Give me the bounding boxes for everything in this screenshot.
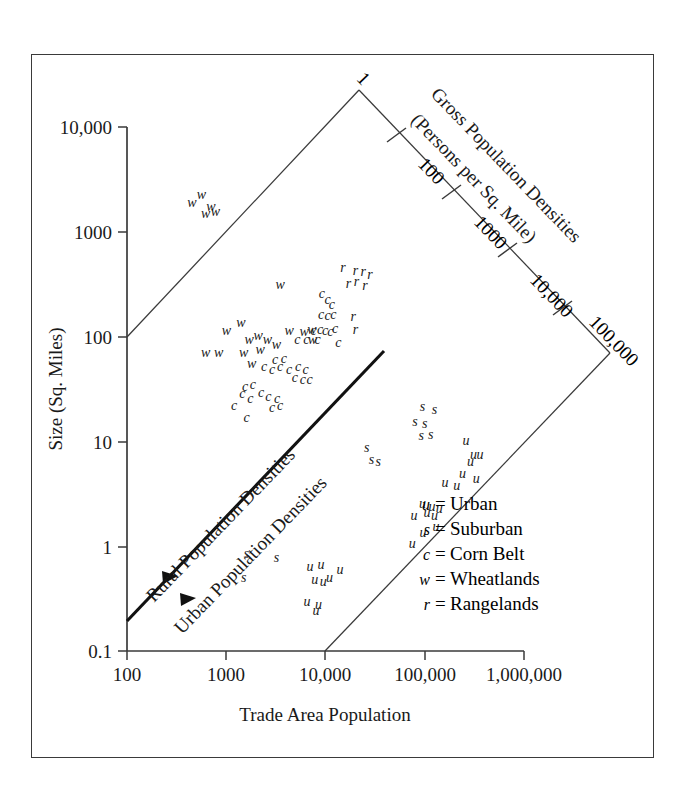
region-boundaries: [127, 90, 610, 651]
data-point-u: u: [442, 475, 449, 490]
y-tick-label: 100: [84, 327, 113, 348]
data-point-c: c: [335, 335, 342, 350]
data-point-r: r: [367, 267, 373, 282]
data-point-u: u: [337, 562, 344, 577]
data-point-w: w: [201, 345, 211, 360]
y-tick-label: 1000: [74, 222, 112, 243]
data-point-c: c: [269, 362, 276, 377]
data-point-c: c: [294, 332, 301, 347]
data-point-r: r: [340, 260, 346, 275]
data-point-w: w: [236, 315, 246, 330]
data-point-s: s: [274, 550, 280, 565]
data-point-w: w: [197, 187, 207, 202]
data-point-u: u: [462, 433, 469, 448]
figure-frame: 10,000 1000 100 10 1 0.1 100 1000 10,000…: [31, 54, 654, 758]
data-point-u: u: [467, 454, 474, 469]
data-point-u: u: [320, 574, 327, 589]
data-point-s: s: [432, 402, 438, 417]
data-point-c: c: [277, 398, 284, 413]
diagonal-tick-label: 1: [353, 68, 375, 89]
diagonal-tick-label: 100,000: [585, 311, 643, 370]
y-tick-label: 0.1: [88, 641, 112, 662]
y-axis-tick-labels: 10,000 1000 100 10 1 0.1: [60, 117, 112, 662]
x-tick-label: 1000: [207, 664, 245, 685]
data-point-r: r: [360, 264, 366, 279]
data-point-s: s: [420, 399, 426, 414]
data-point-s: s: [244, 546, 250, 561]
data-point-c: c: [277, 359, 284, 374]
legend-label: Wheatlands: [450, 568, 540, 589]
diagonal-axis-tick-labels: 1 100 1000 10,000 100,000: [353, 68, 643, 370]
data-point-w: w: [201, 206, 211, 221]
data-point-u: u: [477, 447, 484, 462]
data-point-c: c: [306, 372, 313, 387]
legend-label: Suburban: [450, 518, 523, 539]
data-point-w: w: [214, 345, 224, 360]
x-tick-label: 1,000,000: [486, 664, 562, 685]
data-point-u: u: [303, 594, 310, 609]
scatter-plot: 10,000 1000 100 10 1 0.1 100 1000 10,000…: [32, 55, 652, 756]
data-point-c: c: [303, 332, 310, 347]
data-point-r: r: [346, 276, 352, 291]
x-tick-label: 100: [113, 664, 142, 685]
data-point-c: c: [247, 391, 254, 406]
data-point-s: s: [428, 427, 434, 442]
y-tick-label: 10: [93, 432, 112, 453]
legend-equals: =: [435, 543, 446, 564]
data-point-c: c: [269, 400, 276, 415]
data-point-s: s: [412, 414, 418, 429]
data-point-u: u: [453, 478, 460, 493]
x-tick-label: 100,000: [394, 664, 456, 685]
data-point-w: w: [256, 342, 266, 357]
legend-item: w=Wheatlands: [419, 568, 539, 589]
x-axis-ticks: [127, 651, 524, 660]
data-point-u: u: [326, 570, 333, 585]
data-point-u: u: [311, 572, 318, 587]
data-point-c: c: [314, 332, 321, 347]
legend-equals: =: [435, 493, 446, 514]
data-point-w: w: [276, 277, 286, 292]
legend-item: s=Suburban: [424, 518, 524, 539]
x-tick-label: 10,000: [299, 664, 351, 685]
data-point-w: w: [272, 337, 282, 352]
legend-equals: =: [435, 518, 446, 539]
data-point-u: u: [473, 471, 480, 486]
legend-symbol: s: [424, 521, 430, 538]
data-point-s: s: [418, 428, 424, 443]
data-point-c: c: [332, 321, 339, 336]
data-point-c: c: [243, 410, 250, 425]
legend-equals: =: [435, 593, 446, 614]
data-point-w: w: [222, 323, 232, 338]
data-point-c: c: [239, 386, 246, 401]
y-tick-label: 10,000: [60, 117, 112, 138]
data-point-c: c: [231, 398, 238, 413]
legend-label: Urban: [450, 493, 498, 514]
y-axis-ticks: [118, 127, 127, 651]
legend-symbol: u: [422, 496, 430, 513]
legend-item: r=Rangelands: [424, 593, 539, 614]
legend-label: Rangelands: [450, 593, 539, 614]
data-point-r: r: [362, 278, 368, 293]
legend-label: Corn Belt: [450, 543, 525, 564]
figure-root: 10,000 1000 100 10 1 0.1 100 1000 10,000…: [0, 0, 686, 793]
data-point-u: u: [318, 557, 325, 572]
legend-symbol: w: [419, 571, 430, 588]
data-point-c: c: [292, 370, 299, 385]
data-point-c: c: [258, 385, 265, 400]
x-axis-title: Trade Area Population: [239, 704, 411, 725]
data-point-s: s: [369, 452, 375, 467]
legend-symbol: r: [424, 596, 431, 613]
data-point-w: w: [284, 323, 294, 338]
legend-item: c=Corn Belt: [423, 543, 525, 564]
data-point-w: w: [247, 356, 257, 371]
legend: u=Urbans=Suburbanc=Corn Beltw=Wheatlands…: [419, 493, 539, 614]
data-point-u: u: [411, 508, 418, 523]
data-point-u: u: [409, 536, 416, 551]
diagonal-tick-label: 10,000: [526, 269, 577, 321]
legend-equals: =: [435, 568, 446, 589]
data-point-c: c: [330, 307, 337, 322]
data-point-s: s: [241, 570, 247, 585]
x-axis-tick-labels: 100 1000 10,000 100,000 1,000,000: [113, 664, 562, 685]
y-tick-label: 1: [103, 537, 113, 558]
data-point-u: u: [312, 603, 319, 618]
